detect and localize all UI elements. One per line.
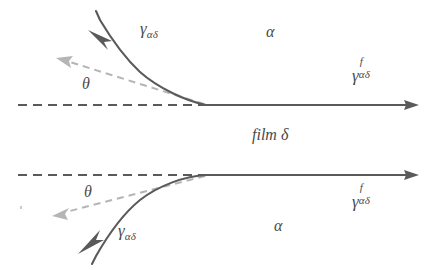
lower-phase-alpha-label: α xyxy=(274,218,282,234)
lower-film-tension-subscript: αδ xyxy=(359,195,371,206)
upper-tangent-arrowhead xyxy=(56,56,73,68)
upper-phase-alpha-label: α xyxy=(266,24,274,40)
lower-angle-theta-label: θ xyxy=(84,184,92,200)
film-delta-label: film δ xyxy=(252,127,288,143)
figure-root: γαδ α θ γfαδ film δ θ γfαδ α γαδ xyxy=(0,0,428,270)
lower-interface-curve xyxy=(92,175,207,264)
upper-angle-theta-text: θ xyxy=(82,75,90,92)
upper-angle-theta-label: θ xyxy=(82,76,90,92)
lower-film-tension-arrowhead xyxy=(404,170,419,180)
lower-tangent-arrowhead xyxy=(52,208,69,220)
lower-angle-theta-text: θ xyxy=(84,183,92,200)
upper-film-tension-arrowhead xyxy=(404,100,419,110)
upper-curved-tension-subscript: αδ xyxy=(147,28,159,40)
lower-film-tension-symbol: γ xyxy=(352,192,359,211)
lower-film-tension-label: γfαδ xyxy=(352,190,373,210)
upper-film-tension-label: γfαδ xyxy=(352,64,373,84)
upper-curved-tension-symbol: γ xyxy=(140,19,147,38)
upper-film-tension-superscript: f xyxy=(360,56,363,67)
lower-phase-alpha-text: α xyxy=(274,217,282,234)
lower-curved-tension-subscript: αδ xyxy=(125,230,137,242)
upper-film-tension-symbol: γ xyxy=(352,66,359,85)
lower-film-tension-superscript: f xyxy=(360,182,363,193)
upper-curved-tension-label: γαδ xyxy=(140,20,158,40)
upper-phase-alpha-text: α xyxy=(266,23,274,40)
lower-curved-tension-label: γαδ xyxy=(118,222,136,242)
upper-film-tension-indices: fαδ xyxy=(359,64,373,81)
lower-curved-tension-symbol: γ xyxy=(118,221,125,240)
upper-film-tension-subscript: αδ xyxy=(359,69,371,80)
diagram-canvas xyxy=(0,0,428,270)
film-delta-text: film δ xyxy=(252,126,288,143)
scan-speck xyxy=(20,206,22,209)
lower-film-tension-indices: fαδ xyxy=(359,190,373,207)
